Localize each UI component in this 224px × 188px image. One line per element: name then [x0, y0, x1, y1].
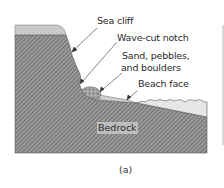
figure-caption: (a) [119, 164, 132, 175]
sediment-label-line1: Sand, pebbles, [122, 50, 190, 61]
sea-cliff-cross-section [0, 0, 224, 188]
sea-cliff-leader [74, 28, 97, 50]
notch-leader [82, 42, 117, 82]
arrowhead-icon [80, 79, 84, 84]
sea-cliff-label: Sea cliff [97, 15, 133, 26]
topsoil-layer [15, 25, 66, 36]
sediment-leader [102, 73, 122, 90]
page-edge-divider [222, 25, 224, 145]
beach-face-label: Beach face [138, 78, 189, 89]
arrowhead-icon [127, 95, 131, 100]
sediment-label-line2: and boulders [121, 62, 181, 73]
arrowhead-icon [100, 87, 104, 92]
bedrock-label: Bedrock [97, 122, 138, 134]
wave-cut-notch-label: Wave-cut notch [117, 32, 189, 43]
